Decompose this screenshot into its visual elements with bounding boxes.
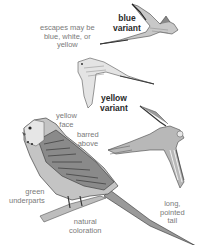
label-green-underparts-line-2: underparts xyxy=(9,197,45,206)
label-barred-above-line-2: above xyxy=(77,140,99,149)
label-yellow-variant: yellow variant xyxy=(100,94,128,113)
label-long-pointed-tail: long, pointed tail xyxy=(160,200,185,226)
label-blue-variant: blue variant xyxy=(113,14,141,33)
label-natural-coloration-line-2: coloration xyxy=(69,227,102,236)
label-blue-variant-line-2: variant xyxy=(113,24,141,34)
illustration-figure: escapes may be blue, white, or yellow bl… xyxy=(0,0,200,245)
label-natural-coloration: natural coloration xyxy=(69,218,102,235)
underside-flying-bird-icon xyxy=(108,106,184,188)
label-long-pointed-tail-line-3: tail xyxy=(160,217,185,226)
label-escapes: escapes may be blue, white, or yellow xyxy=(40,24,95,50)
label-yellow-face-line-2: face xyxy=(56,121,77,130)
label-yellow-face: yellow face xyxy=(56,112,77,129)
label-green-underparts: green underparts xyxy=(9,188,45,205)
label-yellow-variant-line-2: variant xyxy=(100,104,128,114)
label-escapes-line-3: yellow xyxy=(40,41,95,50)
label-barred-above: barred above xyxy=(77,131,99,148)
